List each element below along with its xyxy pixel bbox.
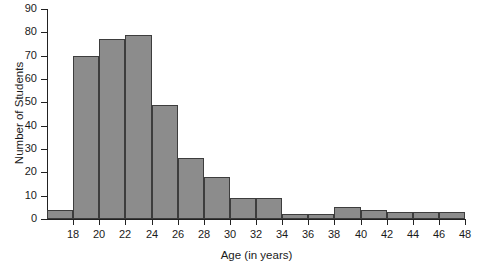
y-axis-tick — [41, 219, 47, 220]
histogram-bar — [230, 198, 256, 219]
histogram-bar — [178, 158, 204, 219]
x-axis-title: Age (in years) — [47, 249, 466, 261]
x-axis-tick-label: 48 — [450, 229, 477, 240]
x-axis-tick — [125, 220, 126, 225]
x-axis-tick — [413, 220, 414, 225]
x-axis-tick — [178, 220, 179, 225]
y-axis-tick-label: 90 — [0, 3, 37, 14]
histogram-bar — [152, 105, 178, 219]
histogram-bar — [282, 214, 308, 219]
histogram-bar — [204, 177, 230, 219]
histogram-bar — [439, 212, 465, 219]
y-axis-title: Number of Students — [13, 23, 25, 203]
x-axis-tick — [152, 220, 153, 225]
x-axis-tick — [465, 220, 466, 225]
x-axis-tick — [99, 220, 100, 225]
x-axis-tick — [308, 220, 309, 225]
histogram-bar — [73, 56, 99, 219]
histogram-bar — [413, 212, 439, 219]
x-axis-tick — [361, 220, 362, 225]
histogram-chart: 0102030405060708090 18202224262830323436… — [0, 0, 477, 276]
y-axis-tick-label: 0 — [0, 213, 37, 224]
histogram-bar — [47, 210, 73, 219]
histogram-bar — [125, 35, 151, 219]
histogram-bar — [256, 198, 282, 219]
x-axis-tick — [256, 220, 257, 225]
x-axis-tick — [334, 220, 335, 225]
histogram-bar — [334, 207, 360, 219]
histogram-bar — [308, 214, 334, 219]
histogram-bar — [387, 212, 413, 219]
x-axis-tick — [439, 220, 440, 225]
x-axis-tick — [204, 220, 205, 225]
x-axis-tick-label: 38 — [319, 229, 349, 240]
histogram-bar — [99, 39, 125, 219]
x-axis-tick — [230, 220, 231, 225]
x-axis-tick — [282, 220, 283, 225]
x-axis-tick — [387, 220, 388, 225]
x-axis-tick — [73, 220, 74, 225]
x-axis-tick-label: 22 — [110, 229, 140, 240]
plot-area — [47, 9, 465, 219]
histogram-bar — [361, 210, 387, 219]
